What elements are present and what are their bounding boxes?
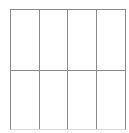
table-cell[interactable] <box>40 10 69 71</box>
table-cell[interactable] <box>97 71 126 129</box>
table-cell-text <box>40 71 68 73</box>
table-cell[interactable] <box>68 71 97 129</box>
table-cell-text <box>68 10 96 12</box>
grid-table[interactable] <box>10 9 126 130</box>
table-cell-text <box>97 10 126 12</box>
table-cell-text <box>40 10 68 12</box>
table-cell-text <box>11 71 39 73</box>
table-cell-text <box>11 10 39 12</box>
table-cell[interactable] <box>11 10 40 71</box>
table-cell[interactable] <box>97 10 126 71</box>
figure-canvas <box>0 0 129 133</box>
table-cell[interactable] <box>11 71 40 129</box>
table-cell-text <box>68 71 96 73</box>
table-cell[interactable] <box>68 10 97 71</box>
table-cell[interactable] <box>40 71 69 129</box>
table-cell-text <box>97 71 126 73</box>
